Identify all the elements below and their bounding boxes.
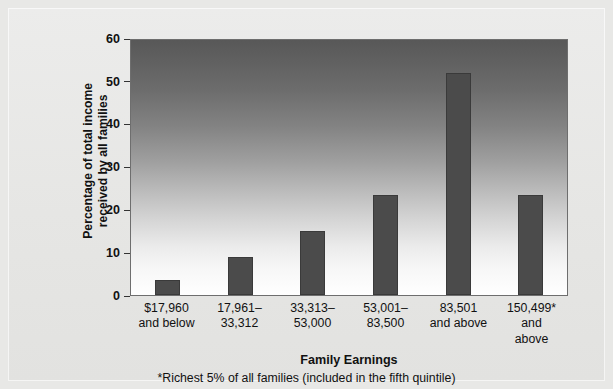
x-axis-label-4: 53,001– 83,500: [349, 301, 422, 347]
x-axis-label-3: 33,313– 53,000: [276, 301, 349, 347]
bar-slot-3: [276, 40, 349, 295]
bars-container: [131, 40, 567, 295]
x-axis-label-2: 17,961– 33,312: [203, 301, 276, 347]
y-axis-tick-label-50: 50: [106, 76, 124, 89]
bar-slot-6: [494, 40, 567, 295]
bar-2[interactable]: [228, 257, 253, 295]
y-axis-tick-label-30: 30: [106, 161, 124, 174]
bar-4[interactable]: [373, 195, 398, 295]
chart-figure: Percentage of total income received by a…: [0, 0, 613, 389]
chart-figure-inner: Percentage of total income received by a…: [8, 8, 605, 381]
y-axis-tick-label-60: 60: [106, 33, 124, 46]
y-axis-tick-label-40: 40: [106, 118, 124, 131]
bar-5[interactable]: [446, 73, 471, 295]
x-axis-label-6: 150,499* and above: [495, 301, 568, 347]
plot-area: [130, 39, 568, 296]
y-axis-title-line1: Percentage of total income: [81, 83, 95, 239]
bar-3[interactable]: [300, 231, 325, 295]
y-axis-tick-label-10: 10: [106, 247, 124, 260]
y-axis-title-wrapper: Percentage of total income received by a…: [26, 86, 56, 256]
bar-6[interactable]: [518, 195, 543, 295]
x-axis-title: Family Earnings: [130, 353, 568, 367]
bar-slot-2: [204, 40, 277, 295]
bar-slot-1: [131, 40, 204, 295]
bar-slot-5: [422, 40, 495, 295]
chart-footnote: *Richest 5% of all families (included in…: [8, 371, 605, 385]
bar-1[interactable]: [155, 280, 180, 295]
y-axis-tick-label-0: 0: [113, 290, 124, 303]
y-axis-tick-label-20: 20: [106, 204, 124, 217]
x-axis-label-5: 83,501 and above: [422, 301, 495, 347]
x-axis-labels: $17,960 and below 17,961– 33,312 33,313–…: [130, 301, 568, 347]
x-axis-label-1: $17,960 and below: [130, 301, 203, 347]
y-axis: 60 50 40 30 20 10 0: [100, 39, 130, 296]
bar-slot-4: [349, 40, 422, 295]
